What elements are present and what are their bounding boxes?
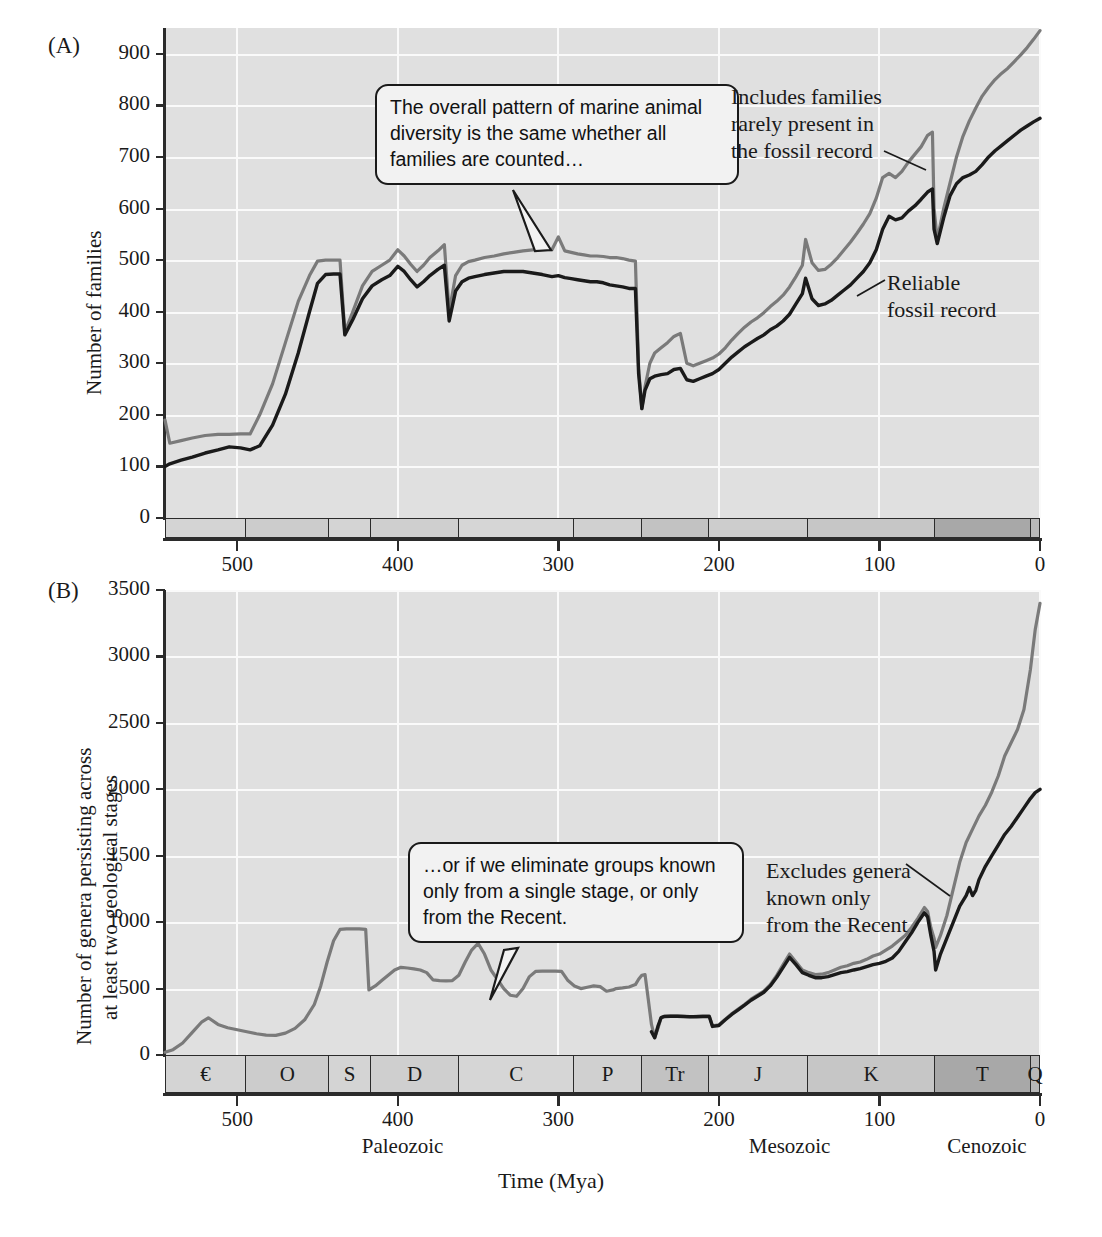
era-label-paleozoic: Paleozoic (313, 1134, 493, 1159)
axis-tick (1039, 540, 1041, 551)
panel-b-x-axis-line (163, 1093, 1042, 1096)
era-label-mesozoic: Mesozoic (700, 1134, 880, 1159)
panel-a-annotation-lower: Reliable fossil record (887, 270, 996, 324)
geologic-period-label: D (407, 1062, 422, 1087)
geologic-period-t (935, 519, 1031, 537)
geologic-period-o (246, 519, 329, 537)
geologic-period-tr (642, 519, 709, 537)
geologic-period-k: K (808, 1056, 935, 1092)
y-tick-label: 100 (80, 452, 150, 477)
y-tick-label: 700 (80, 143, 150, 168)
annot-a-lower-l1: Reliable (887, 270, 960, 295)
panel-b-callout: …or if we eliminate groups known only fr… (408, 842, 744, 943)
geologic-period-cambrian (166, 519, 246, 537)
axis-tick (236, 1095, 238, 1106)
geologic-period-label: O (280, 1062, 295, 1087)
geologic-period-c: C (459, 1056, 574, 1092)
geologic-period-t: T (935, 1056, 1031, 1092)
series-line-1 (165, 603, 1040, 1052)
panel-a-letter: (A) (48, 33, 80, 59)
geologic-period-tr: Tr (642, 1056, 709, 1092)
geologic-period-j (709, 519, 808, 537)
panel-b-series-canvas (165, 590, 1040, 1057)
panel-b-geologic-time-bar: €OSDCPTrJKTQ (165, 1055, 1040, 1093)
panel-a-x-axis-line (163, 538, 1042, 541)
x-tick-label: 0 (995, 552, 1085, 577)
axis-tick (878, 540, 880, 551)
annot-b-l2: known only (766, 885, 871, 910)
y-tick-label: 2500 (70, 709, 150, 734)
x-tick-label: 400 (353, 552, 443, 577)
geologic-period-s: S (329, 1056, 371, 1092)
axis-tick (236, 540, 238, 551)
panel-b-callout-tail (470, 948, 540, 1010)
panel-b-leader (906, 862, 962, 904)
geologic-period-label: P (602, 1062, 614, 1087)
x-tick-label: 100 (834, 1107, 924, 1132)
geologic-period-label: Tr (665, 1062, 684, 1087)
axis-tick (557, 540, 559, 551)
annot-a-upper-l2: rarely present in (731, 111, 874, 136)
geologic-period-s (329, 519, 371, 537)
geologic-period-p (574, 519, 641, 537)
geologic-period-j: J (709, 1056, 808, 1092)
axis-tick (397, 540, 399, 551)
geologic-period-d (371, 519, 459, 537)
geologic-period-d: D (371, 1056, 459, 1092)
panel-a-callout: The overall pattern of marine animal div… (375, 84, 739, 185)
panel-a-leader-lower (855, 268, 895, 298)
geologic-period-k (808, 519, 935, 537)
axis-tick (397, 1095, 399, 1106)
y-tick-label: 3000 (70, 642, 150, 667)
geologic-period-cambrian: € (166, 1056, 246, 1092)
geologic-period-label: J (754, 1062, 762, 1087)
panel-a-y-axis-label: Number of families (82, 231, 107, 395)
panel-a-geologic-time-bar (165, 518, 1040, 538)
y-tick-label: 600 (80, 195, 150, 220)
y-tick-label: 200 (80, 401, 150, 426)
x-tick-label: 300 (513, 552, 603, 577)
panel-b-annotation-right: Excludes genera known only from the Rece… (766, 858, 911, 938)
panel-b-y-axis-label-line2: at least two geological stages (98, 775, 123, 1020)
geologic-period-q: Q (1031, 1056, 1039, 1092)
x-tick-label: 100 (834, 552, 924, 577)
y-tick-label: 0 (80, 504, 150, 529)
geologic-period-q (1031, 519, 1039, 537)
x-axis-title: Time (Mya) (0, 1168, 1102, 1194)
geologic-period-label: S (344, 1062, 356, 1087)
axis-tick (718, 540, 720, 551)
geologic-period-label: Q (1027, 1062, 1042, 1087)
annot-a-upper-l3: the fossil record (731, 138, 873, 163)
geologic-period-label: C (509, 1062, 523, 1087)
axis-tick (718, 1095, 720, 1106)
annot-b-l3: from the Recent (766, 912, 908, 937)
x-tick-label: 200 (674, 552, 764, 577)
geologic-period-label: € (200, 1062, 211, 1087)
x-tick-label: 500 (192, 552, 282, 577)
panel-a-annotation-upper: Includes families rarely present in the … (731, 84, 882, 164)
geologic-period-o: O (246, 1056, 329, 1092)
x-tick-label: 400 (353, 1107, 443, 1132)
axis-tick (557, 1095, 559, 1106)
x-tick-label: 0 (995, 1107, 1085, 1132)
axis-tick (1039, 1095, 1041, 1106)
annot-b-l1: Excludes genera (766, 858, 911, 883)
axis-tick (878, 1095, 880, 1106)
geologic-period-label: T (976, 1062, 989, 1087)
annot-a-upper-l1: Includes families (731, 84, 882, 109)
x-tick-label: 500 (192, 1107, 282, 1132)
annot-a-lower-l2: fossil record (887, 297, 996, 322)
x-tick-label: 300 (513, 1107, 603, 1132)
geologic-period-c (459, 519, 574, 537)
panel-a-callout-tail (505, 190, 575, 268)
y-tick-label: 800 (80, 91, 150, 116)
geologic-period-label: K (864, 1062, 879, 1087)
geologic-period-p: P (574, 1056, 641, 1092)
y-tick-label: 3500 (70, 576, 150, 601)
era-label-cenozoic: Cenozoic (897, 1134, 1077, 1159)
page-caption-edge (1094, 0, 1102, 1237)
panel-a-leader-upper (884, 146, 944, 176)
panel-b-y-axis-label-line1: Number of genera persisting across (72, 748, 97, 1045)
y-tick-label: 900 (80, 40, 150, 65)
x-tick-label: 200 (674, 1107, 764, 1132)
